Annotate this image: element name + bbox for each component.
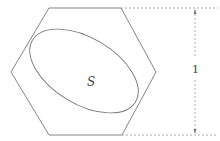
dimension-label: 1	[192, 63, 199, 76]
arrow-up-icon	[194, 9, 197, 14]
region-label-s: S	[87, 75, 95, 89]
arrow-down-icon	[194, 129, 197, 134]
hexagon	[11, 8, 156, 135]
diagram-canvas: S 1	[0, 0, 220, 141]
